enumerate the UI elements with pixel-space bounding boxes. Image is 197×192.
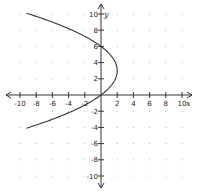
graph: -10-8-6-4-2246810108642-2-4-6-8-10 x y (0, 0, 197, 192)
svg-text:-10: -10 (87, 173, 98, 181)
svg-text:8: 8 (94, 27, 98, 35)
x-axis-label: x (186, 99, 191, 108)
svg-text:-8: -8 (33, 100, 40, 108)
y-axis-label: y (103, 10, 109, 19)
coordinate-plane: -10-8-6-4-2246810108642-2-4-6-8-10 x y (0, 0, 197, 192)
svg-text:-10: -10 (14, 100, 25, 108)
svg-text:4: 4 (131, 100, 136, 108)
svg-text:6: 6 (147, 100, 152, 108)
svg-text:-6: -6 (49, 100, 57, 108)
svg-text:2: 2 (115, 100, 119, 108)
svg-text:-4: -4 (91, 124, 99, 132)
svg-text:-2: -2 (91, 108, 98, 116)
svg-text:8: 8 (164, 100, 168, 108)
svg-text:-4: -4 (65, 100, 73, 108)
svg-text:4: 4 (94, 59, 99, 67)
svg-text:10: 10 (89, 11, 98, 19)
svg-text:-8: -8 (91, 156, 98, 164)
svg-text:2: 2 (94, 75, 98, 83)
svg-text:-6: -6 (91, 140, 99, 148)
